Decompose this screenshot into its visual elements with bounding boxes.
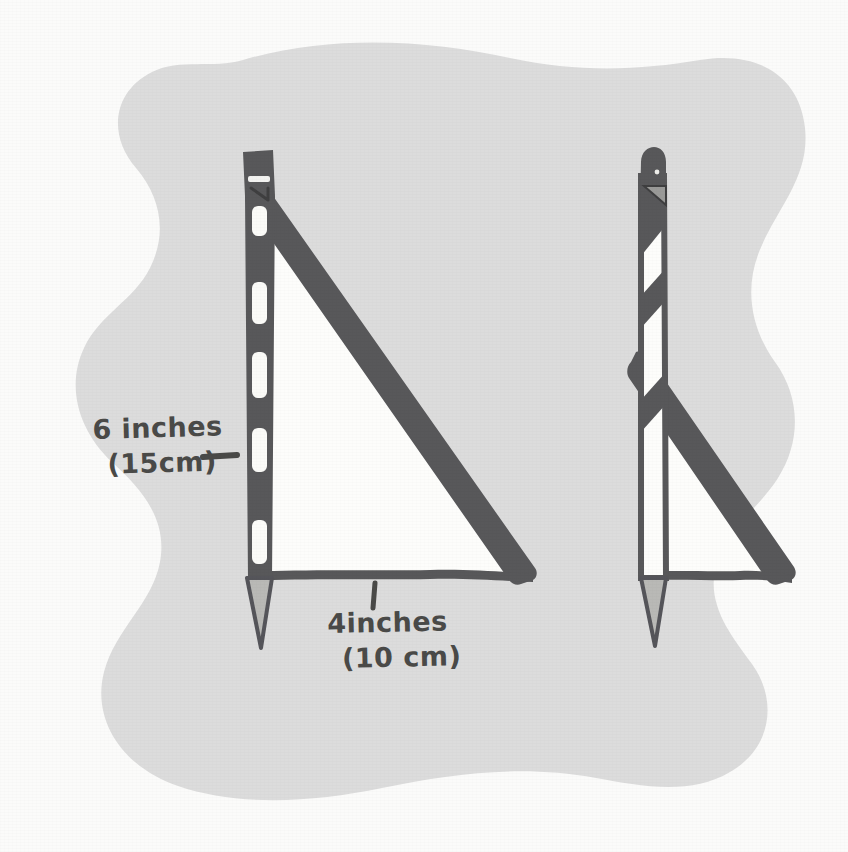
diagram-canvas: 6 inches (15cm) 4inches (10 cm) xyxy=(0,0,848,852)
label-vertical-metric: (15cm) xyxy=(107,445,224,481)
label-horizontal-metric: (10 cm) xyxy=(342,640,462,675)
label-vertical-imperial: 6 inches xyxy=(92,410,223,447)
label-vertical-measure: 6 inches (15cm) xyxy=(92,410,224,481)
tick-leader-up xyxy=(373,583,375,608)
label-horizontal-measure: 4inches (10 cm) xyxy=(327,605,462,676)
label-horizontal-imperial: 4inches xyxy=(327,605,461,641)
